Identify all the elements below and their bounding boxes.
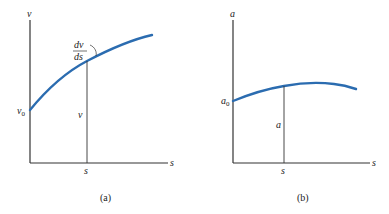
panel-a-caption: (a) — [100, 192, 111, 204]
panel-b-caption: (b) — [297, 192, 309, 204]
panel-a-marker-label: s — [84, 165, 88, 176]
panel-b-curve — [233, 83, 356, 101]
panel-a-slope-numerator: dv — [74, 39, 84, 50]
panel-a-segment-label: v — [78, 109, 83, 120]
panel-b-x-axis-label: s — [372, 157, 376, 168]
panel-b-intercept-label: a0 — [221, 95, 230, 108]
figure: v s v0 dv ds v s (a) a s a0 a s (b) — [0, 0, 389, 214]
panel-b: a s a0 a s (b) — [221, 8, 376, 204]
panel-a-intercept-label: v0 — [17, 105, 25, 118]
panel-b-segment-label: a — [276, 119, 281, 130]
panel-a: v s v0 dv ds v s (a) — [17, 8, 174, 204]
panel-a-x-axis-label: s — [170, 157, 174, 168]
panel-a-slope-leader — [90, 45, 96, 56]
panel-b-marker-label: s — [281, 165, 285, 176]
panel-a-slope-denominator: ds — [74, 51, 83, 62]
panel-a-curve — [30, 35, 152, 110]
panel-a-y-axis-label: v — [27, 8, 32, 19]
panel-b-y-axis-label: a — [230, 8, 235, 19]
